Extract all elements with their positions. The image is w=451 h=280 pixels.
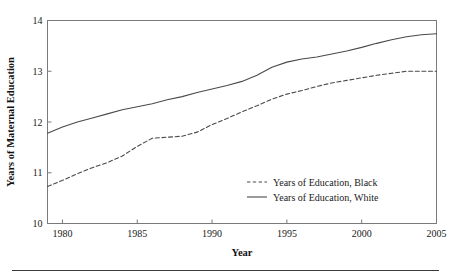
line-chart: 1011121314 198019851990199520002005 Year… [0,0,451,280]
x-tick-label: 1980 [52,228,72,239]
figure-container: 1011121314 198019851990199520002005 Year… [0,0,451,280]
x-tick-label: 1995 [277,228,297,239]
x-tick-label: 2005 [427,228,447,239]
x-tick-label: 1985 [127,228,147,239]
y-axis-title: Years of Maternal Education [5,57,16,187]
y-tick-label: 14 [33,15,43,26]
y-tick-label: 13 [33,66,43,77]
y-tick-label: 12 [33,117,43,128]
y-tick-label: 10 [33,218,43,229]
x-axis-title: Year [232,247,253,258]
legend-label-1: Years of Education, Black [273,177,378,188]
y-tick-label: 11 [33,167,43,178]
x-tick-label: 1990 [202,228,222,239]
legend-label-2: Years of Education, White [273,192,379,203]
x-tick-label: 2000 [352,228,372,239]
